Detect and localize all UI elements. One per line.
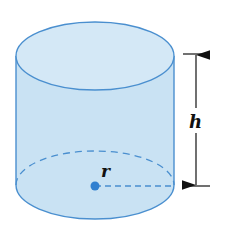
center-dot — [91, 182, 100, 191]
top-ellipse — [16, 22, 174, 90]
cylinder-diagram: r h — [0, 0, 235, 233]
radius-label: r — [101, 161, 111, 181]
height-label: h — [189, 111, 202, 132]
